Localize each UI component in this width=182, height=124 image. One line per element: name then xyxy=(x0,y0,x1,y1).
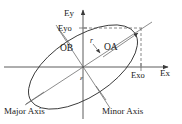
radius-label: r xyxy=(90,36,93,45)
r-vector-group xyxy=(93,44,100,53)
major-axis-line xyxy=(25,22,152,105)
ob-vector-label: OB xyxy=(60,43,73,53)
r-vector-arrow xyxy=(93,44,100,53)
ellipse-diagram: Ey Ex Eyo Exo OB OA r ε Major Axis Minor… xyxy=(0,0,182,124)
minor-axis-label: Minor Axis xyxy=(102,106,144,116)
eyo-tick-label: Eyo xyxy=(58,23,72,33)
origin-angle-symbol: ε xyxy=(80,74,83,82)
exo-tick-label: Exo xyxy=(131,70,145,80)
y-axis-label: Ey xyxy=(64,8,74,18)
principal-axes-group xyxy=(25,22,152,108)
oa-vector-label: OA xyxy=(104,42,118,52)
diagram-canvas: Ey Ex Eyo Exo OB OA r ε Major Axis Minor… xyxy=(0,0,182,124)
major-axis-label: Major Axis xyxy=(4,106,45,116)
minor-axis-line xyxy=(57,27,110,108)
x-axis-label: Ex xyxy=(160,68,170,78)
